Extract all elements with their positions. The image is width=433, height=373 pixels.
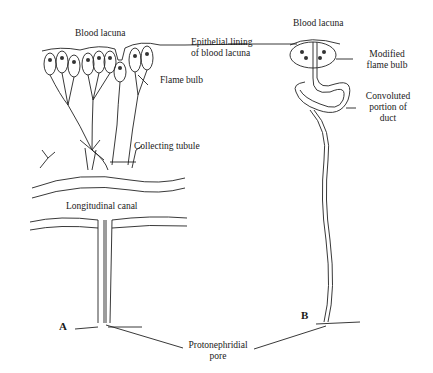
label-pore-2: pore — [180, 351, 256, 362]
panel-letter-a: A — [59, 321, 67, 332]
label-convoluted-1: Convoluted — [358, 91, 418, 102]
label-modified-1: Modified — [357, 49, 417, 60]
label-convoluted-3: duct — [358, 113, 418, 124]
convoluted-duct — [295, 78, 350, 112]
longitudinal-canal-wall-upper — [32, 176, 185, 188]
label-blood-lacuna-b: Blood lacuna — [293, 18, 343, 29]
duct-b — [310, 110, 333, 322]
label-longitudinal-canal: Longitudinal canal — [66, 201, 138, 212]
label-pore-1: Protonephridial — [180, 340, 256, 351]
label-flame-bulb: Flame bulb — [160, 75, 203, 86]
duct-a — [98, 220, 112, 323]
longitudinal-canal-wall-lower — [30, 217, 187, 222]
label-collecting-tubule: Collecting tubule — [134, 141, 200, 152]
label-modified-2: flame bulb — [357, 60, 417, 71]
panel-letter-b: B — [301, 310, 308, 321]
label-convoluted-2: portion of — [358, 102, 418, 113]
label-epithelial-lining-1: Epithelial lining — [191, 37, 252, 48]
tubule-tree-a — [50, 70, 147, 170]
label-epithelial-lining-2: of blood lacuna — [191, 48, 250, 59]
label-blood-lacuna-a: Blood lacuna — [75, 28, 125, 39]
